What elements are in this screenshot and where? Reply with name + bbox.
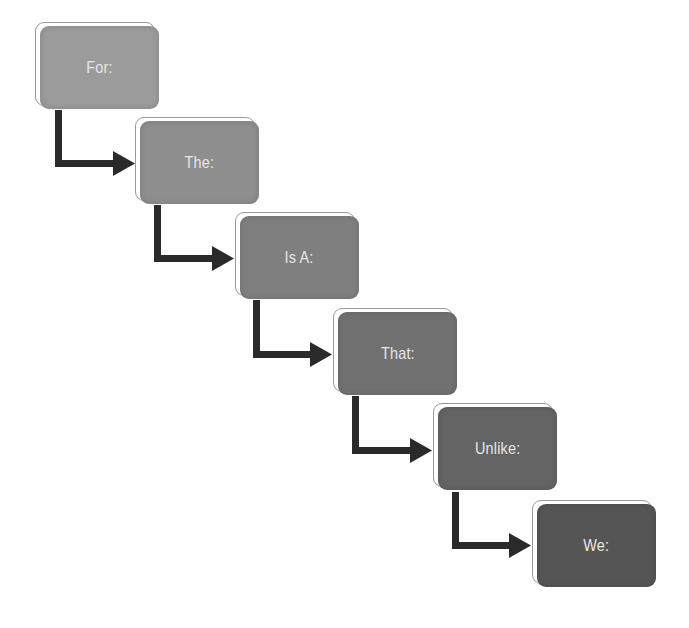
step-box-that: That: bbox=[333, 308, 455, 392]
step-label: For: bbox=[86, 58, 112, 78]
step-label: That: bbox=[381, 344, 415, 364]
step-box-is-a: Is A: bbox=[235, 212, 357, 296]
step-label: Is A: bbox=[285, 248, 314, 268]
box-fill: Unlike: bbox=[438, 407, 557, 490]
step-label: We: bbox=[584, 536, 610, 556]
box-fill: Is A: bbox=[240, 216, 359, 299]
arrow-icon bbox=[154, 205, 234, 271]
box-fill: That: bbox=[338, 312, 457, 395]
box-fill: The: bbox=[140, 121, 259, 204]
step-box-the: The: bbox=[135, 117, 257, 201]
step-box-we: We: bbox=[532, 500, 654, 584]
arrow-icon bbox=[253, 300, 332, 367]
step-box-unlike: Unlike: bbox=[433, 403, 555, 487]
arrow-icon bbox=[352, 396, 432, 463]
positioning-flow-diagram: For: The: Is A: That: Unlike: We: bbox=[0, 0, 689, 628]
step-label: Unlike: bbox=[475, 439, 520, 459]
box-fill: For: bbox=[40, 26, 159, 109]
step-box-for: For: bbox=[35, 22, 157, 106]
step-label: The: bbox=[185, 153, 215, 173]
box-fill: We: bbox=[537, 504, 656, 587]
arrow-icon bbox=[55, 110, 135, 176]
arrow-icon bbox=[452, 492, 531, 558]
